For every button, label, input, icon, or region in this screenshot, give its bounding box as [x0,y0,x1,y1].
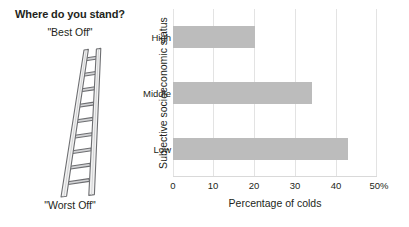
plot-area [173,9,377,177]
bar-high[interactable] [173,26,255,48]
gridline-50 [376,9,377,177]
bar-low[interactable] [173,138,348,160]
ladder-icon [26,42,118,200]
y-tick-label-high: High [111,32,171,43]
x-tick-label-20: 20 [249,180,260,191]
x-axis-line [173,176,377,177]
bar-chart-panel: Subjective socioeconomic status High Mid… [140,0,409,227]
x-axis-title: Percentage of colds [173,197,377,209]
x-tick-label-50: 50% [369,180,388,191]
ladder-bottom-label: "Worst Off" [0,199,140,211]
x-tick-label-10: 10 [208,180,219,191]
page-title: Where do you stand? [0,8,140,20]
x-tick-label-40: 40 [331,180,342,191]
bar-middle[interactable] [173,82,312,104]
x-tick-label-30: 30 [290,180,301,191]
y-tick-label-middle: Middle [111,88,171,99]
y-tick-label-low: Low [111,144,171,155]
x-tick-label-0: 0 [170,180,175,191]
